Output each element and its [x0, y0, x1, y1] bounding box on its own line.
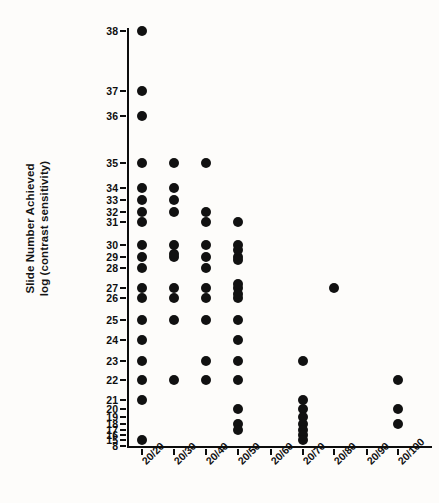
data-point [329, 283, 339, 293]
data-point [137, 195, 147, 205]
data-point [201, 315, 211, 325]
y-tick-label: 26 [106, 293, 118, 304]
y-tick-mark [120, 115, 126, 117]
data-point [169, 375, 179, 385]
y-tick-mark [120, 439, 126, 441]
y-tick-label: 8 [112, 441, 118, 452]
data-point [201, 293, 211, 303]
y-tick-label: 30 [106, 240, 118, 251]
data-point [233, 404, 243, 414]
y-tick-mark [120, 399, 126, 401]
data-point [137, 263, 147, 273]
data-point [169, 293, 179, 303]
data-point [233, 335, 243, 345]
x-tick-label: 20/90 [365, 440, 391, 466]
y-tick-label: 24 [106, 335, 118, 346]
data-point [233, 217, 243, 227]
data-point [393, 404, 403, 414]
x-tick-label: 20/80 [332, 440, 358, 466]
data-point [233, 315, 243, 325]
data-point [201, 207, 211, 217]
data-point [201, 252, 211, 262]
data-point [201, 263, 211, 273]
x-tick-label: 20/100 [396, 436, 426, 466]
y-tick-mark [120, 429, 126, 431]
data-point [137, 335, 147, 345]
data-point [169, 249, 179, 259]
y-axis-title: Slide Number Achieved log (contrast sens… [24, 129, 51, 329]
y-tick-mark [120, 287, 126, 289]
plot-area: 3837363534333231302928272625242322212019… [127, 28, 432, 448]
y-tick-mark [120, 408, 126, 410]
data-point [137, 356, 147, 366]
data-point [137, 158, 147, 168]
x-tick-label: 20/40 [204, 440, 230, 466]
y-tick-label: 25 [106, 315, 118, 326]
y-tick-mark [120, 30, 126, 32]
data-point [137, 252, 147, 262]
data-point [201, 356, 211, 366]
y-tick-mark [120, 244, 126, 246]
y-tick-label: 28 [106, 263, 118, 274]
data-point [169, 195, 179, 205]
y-tick-mark [120, 416, 126, 418]
y-tick-label: 35 [106, 158, 118, 169]
y-tick-mark [120, 360, 126, 362]
data-point [201, 217, 211, 227]
y-tick-mark [120, 162, 126, 164]
y-tick-label: 23 [106, 356, 118, 367]
data-point [137, 395, 147, 405]
data-point [137, 111, 147, 121]
data-point [137, 26, 147, 36]
data-point [169, 207, 179, 217]
data-point [137, 375, 147, 385]
x-tick-label: 20/30 [172, 440, 198, 466]
data-point [201, 375, 211, 385]
data-point [233, 245, 243, 255]
y-tick-label: 22 [106, 375, 118, 386]
data-point [137, 435, 147, 445]
data-point [137, 240, 147, 250]
data-point [393, 375, 403, 385]
data-point [169, 183, 179, 193]
data-point [233, 356, 243, 366]
y-tick-label: 38 [106, 26, 118, 37]
x-tick-label: 20/60 [269, 440, 295, 466]
data-point [169, 283, 179, 293]
data-point [233, 255, 243, 265]
y-tick-label: 29 [106, 252, 118, 263]
y-tick-label: 31 [106, 217, 118, 228]
y-tick-label: 37 [106, 86, 118, 97]
data-point [233, 375, 243, 385]
x-tick-label: 20/50 [236, 440, 262, 466]
data-point [233, 289, 243, 299]
data-point [137, 293, 147, 303]
scatter-plot-figure: Slide Number Achieved log (contrast sens… [0, 0, 439, 503]
data-point [137, 86, 147, 96]
y-tick-mark [120, 434, 126, 436]
y-tick-mark [120, 256, 126, 258]
data-point [233, 425, 243, 435]
data-point [169, 315, 179, 325]
data-point [137, 315, 147, 325]
y-tick-mark [120, 221, 126, 223]
y-tick-label: 34 [106, 183, 118, 194]
y-tick-mark [120, 267, 126, 269]
data-point [201, 283, 211, 293]
y-tick-mark [120, 187, 126, 189]
y-tick-mark [120, 211, 126, 213]
y-tick-mark [120, 339, 126, 341]
y-tick-mark [120, 199, 126, 201]
data-point [201, 240, 211, 250]
data-point [393, 419, 403, 429]
data-point [137, 183, 147, 193]
data-point [137, 217, 147, 227]
y-tick-label: 36 [106, 111, 118, 122]
y-tick-mark [120, 297, 126, 299]
data-point [169, 158, 179, 168]
y-tick-label: 33 [106, 195, 118, 206]
data-point [201, 158, 211, 168]
data-point [298, 356, 308, 366]
y-tick-mark [120, 445, 126, 447]
data-point [298, 435, 308, 445]
